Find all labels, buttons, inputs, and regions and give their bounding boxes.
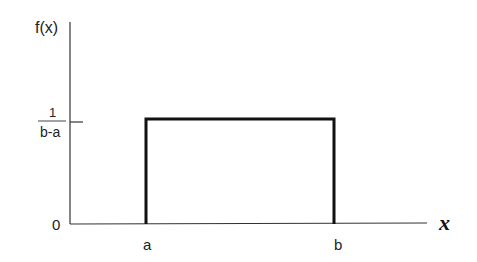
density-curve: [146, 119, 334, 224]
uniform-pdf-chart: f(x) 1 b-a 0 a b x: [0, 0, 477, 262]
x-tick-b: b: [334, 236, 342, 253]
fraction-numerator: 1: [49, 105, 56, 120]
x-axis: [70, 223, 427, 224]
x-axis-label: x: [438, 210, 450, 235]
fraction-denominator: b-a: [40, 124, 60, 140]
y-axis-label: f(x): [35, 19, 58, 36]
y-tick-zero: 0: [52, 216, 60, 233]
x-tick-a: a: [143, 236, 152, 253]
